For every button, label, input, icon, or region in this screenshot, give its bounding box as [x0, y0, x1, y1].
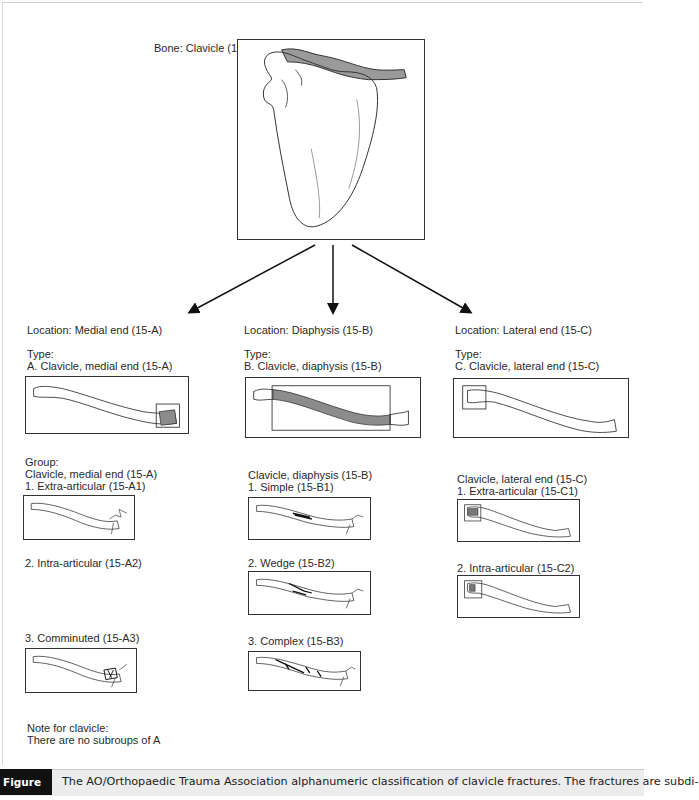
group-c1-label: 1. Extra-articular (15-C1)	[457, 485, 578, 498]
group-b2-illustration	[248, 571, 371, 615]
scapula-clavicle-drawing	[238, 40, 424, 239]
group-a1-illustration	[23, 495, 135, 540]
group-b3-illustration	[248, 651, 361, 691]
type-label-c: C. Clavicle, lateral end (15-C)	[455, 360, 599, 373]
location-c: Location: Lateral end (15-C)	[455, 324, 592, 337]
group-b1-illustration	[248, 497, 371, 540]
type-c-illustration	[453, 378, 629, 438]
group-c2-illustration	[457, 575, 580, 618]
type-b-illustration	[245, 377, 421, 438]
bone-label: Bone: Clavicle (15	[154, 42, 243, 55]
figure-tag: Figure 1	[0, 769, 52, 795]
type-a-illustration	[25, 376, 189, 434]
group-c1-illustration	[457, 499, 580, 542]
scapula-illustration	[237, 39, 425, 240]
group-b1-label: 1. Simple (15-B1)	[248, 481, 334, 494]
group-a1-label: 1. Extra-articular (15-A1)	[25, 480, 145, 493]
type-label-a: A. Clavicle, medial end (15-A)	[27, 360, 173, 373]
group-a3-illustration	[25, 648, 137, 693]
figure-caption: The AO/Orthopaedic Trauma Association al…	[62, 775, 699, 788]
location-b: Location: Diaphysis (15-B)	[244, 324, 373, 337]
group-c2-label: 2. Intra-articular (15-C2)	[457, 562, 574, 575]
group-b3-label: 3. Complex (15-B3)	[248, 635, 343, 648]
group-b2-label: 2. Wedge (15-B2)	[248, 557, 335, 570]
group-a3-label: 3. Comminuted (15-A3)	[25, 632, 139, 645]
note-text: There are no subroups of A	[27, 734, 160, 747]
group-a2-label: 2. Intra-articular (15-A2)	[25, 557, 142, 570]
type-label-b: B. Clavicle, diaphysis (15-B)	[244, 360, 382, 373]
location-a: Location: Medial end (15-A)	[27, 324, 162, 337]
